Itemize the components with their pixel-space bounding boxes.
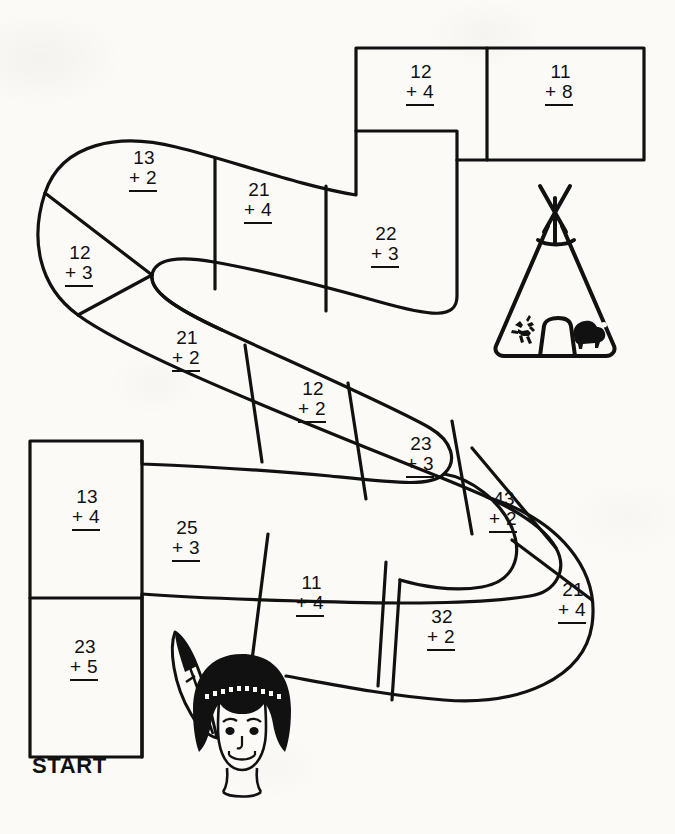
addend-bottom: +4 — [72, 507, 100, 531]
plus-sign: + — [65, 263, 82, 283]
cell-13: 22 +3 — [371, 224, 399, 268]
plus-sign: + — [489, 509, 506, 529]
shoulders — [223, 792, 261, 797]
cell-7: 23 +3 — [406, 434, 434, 478]
child-illustration — [155, 618, 330, 834]
worksheet-page: 23 +5 13 +4 25 +3 11 +4 32 +2 21 +4 43 +… — [0, 0, 675, 834]
cell-15: 11 +8 — [545, 62, 573, 106]
cell-2: 25 +3 — [172, 518, 200, 562]
start-label: START — [32, 753, 107, 779]
addend-top: 25 — [172, 518, 200, 538]
addend-top: 12 — [298, 379, 326, 399]
addend-top: 23 — [406, 434, 434, 454]
plus-sign: + — [172, 538, 189, 558]
neck-right — [257, 768, 261, 792]
addend-top: 23 — [70, 637, 98, 657]
addend-bottom: +2 — [298, 399, 326, 423]
addend-bottom: +4 — [406, 82, 434, 106]
cell-6: 43 +2 — [489, 489, 517, 533]
cell-14: 12 +4 — [406, 62, 434, 106]
cell-11: 13 +2 — [129, 148, 157, 192]
addend-bottom: +2 — [427, 627, 455, 651]
addend-top: 21 — [172, 328, 200, 348]
top-right-step-outline — [356, 48, 644, 160]
buffalo-motif — [574, 321, 607, 349]
addend-top: 12 — [65, 243, 93, 263]
cell-1: 13 +4 — [72, 487, 100, 531]
plus-sign: + — [70, 657, 87, 677]
divider-left-a — [45, 193, 152, 275]
addend-bottom: +2 — [489, 509, 517, 533]
plus-sign: + — [172, 348, 189, 368]
right-uturn-outer — [286, 497, 593, 701]
addend-bottom: +8 — [545, 82, 573, 106]
cell-start: 23 +5 — [70, 637, 98, 681]
eye-right — [249, 727, 258, 735]
game-board-path — [0, 0, 675, 834]
plus-sign: + — [427, 627, 444, 647]
plus-sign: + — [545, 82, 562, 102]
cell-10: 12 +3 — [65, 243, 93, 287]
addend-top: 12 — [406, 62, 434, 82]
addend-top: 13 — [72, 487, 100, 507]
eye-left — [225, 727, 234, 735]
addend-bottom: +3 — [65, 263, 93, 287]
plus-sign: + — [558, 600, 575, 620]
cell-12: 21 +4 — [244, 180, 272, 224]
addend-top: 21 — [244, 180, 272, 200]
teepee-door — [540, 318, 575, 356]
plus-sign: + — [371, 244, 388, 264]
addend-bottom: +3 — [172, 538, 200, 562]
cell-5: 21 +4 — [558, 580, 586, 624]
addend-bottom: +3 — [406, 454, 434, 478]
neck-left — [223, 768, 227, 792]
plus-sign: + — [296, 593, 313, 613]
cell-9: 21 +2 — [172, 328, 200, 372]
plus-sign: + — [406, 454, 423, 474]
addend-bottom: +3 — [371, 244, 399, 268]
addend-top: 11 — [545, 62, 573, 82]
divider-lower-2 — [378, 562, 386, 686]
addend-top: 32 — [427, 607, 455, 627]
addend-bottom: +5 — [70, 657, 98, 681]
teepee-icon — [482, 168, 632, 368]
plus-sign: + — [244, 200, 261, 220]
plus-sign: + — [298, 399, 315, 419]
addend-top: 22 — [371, 224, 399, 244]
addend-top: 21 — [558, 580, 586, 600]
divider-right-3 — [392, 580, 400, 700]
cell-3: 11 +4 — [296, 573, 324, 617]
plus-sign: + — [129, 168, 146, 188]
addend-bottom: +2 — [172, 348, 200, 372]
upper-inner-curve-a — [152, 275, 222, 330]
addend-top: 13 — [129, 148, 157, 168]
addend-bottom: +4 — [296, 593, 324, 617]
cell-8: 12 +2 — [298, 379, 326, 423]
addend-bottom: +4 — [558, 600, 586, 624]
addend-top: 11 — [296, 573, 324, 593]
addend-top: 43 — [489, 489, 517, 509]
plus-sign: + — [406, 82, 423, 102]
plus-sign: + — [72, 507, 89, 527]
horse-rider-motif — [511, 315, 535, 344]
addend-bottom: +4 — [244, 200, 272, 224]
addend-bottom: +2 — [129, 168, 157, 192]
cell-4: 32 +2 — [427, 607, 455, 651]
